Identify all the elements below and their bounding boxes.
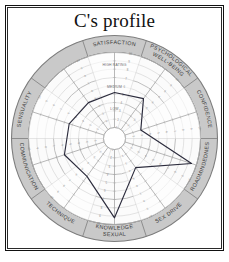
radar-chart-svg: 1098765432110987654321109876543211098765…	[9, 33, 220, 244]
screenshot-root: C's profile 1098765432110987654321109876…	[0, 0, 229, 262]
svg-text:10: 10	[129, 52, 133, 56]
radar-chart: 1098765432110987654321109876543211098765…	[9, 33, 220, 244]
center-hub	[104, 128, 126, 150]
svg-text:MEDIUM: MEDIUM	[107, 85, 122, 89]
page-title: C's profile	[7, 10, 222, 32]
svg-text:HIGH RATING: HIGH RATING	[102, 63, 126, 67]
category-label: SEXUAL	[103, 231, 127, 238]
svg-text:LOW: LOW	[110, 107, 119, 111]
